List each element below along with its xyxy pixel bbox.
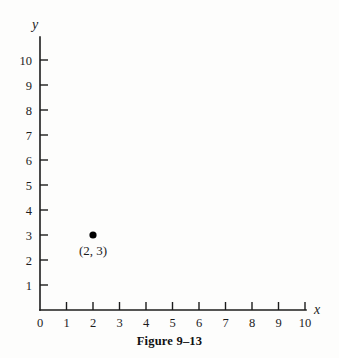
data-point-dot: [89, 231, 96, 238]
figure-caption: Figure 9–13: [0, 334, 339, 349]
x-tick-label: 3: [116, 316, 122, 330]
coordinate-plane-plot: 12345678910 012345678910 y x (2, 3): [0, 0, 339, 358]
x-tick-label: 4: [143, 316, 150, 330]
y-tick-label: 9: [26, 79, 32, 93]
figure-container: 12345678910 012345678910 y x (2, 3) Figu…: [0, 0, 339, 358]
x-tick-label: 10: [299, 316, 312, 330]
x-tick-label: 1: [63, 316, 69, 330]
y-tick-label: 4: [26, 204, 33, 218]
x-tick-label: 7: [222, 316, 228, 330]
y-tick-label: 8: [26, 104, 32, 118]
x-tick-label: 8: [249, 316, 255, 330]
x-axis-ticks-group: 012345678910: [37, 302, 311, 330]
y-tick-label: 3: [26, 229, 32, 243]
y-tick-label: 1: [26, 279, 32, 293]
x-tick-label: 9: [275, 316, 281, 330]
x-tick-label: 5: [169, 316, 175, 330]
data-point-label: (2, 3): [79, 243, 107, 258]
x-tick-label: 6: [196, 316, 202, 330]
data-points-group: (2, 3): [79, 231, 107, 258]
y-axis-label: y: [30, 17, 39, 32]
axes-group: [40, 37, 306, 310]
y-tick-label: 10: [20, 54, 33, 68]
x-tick-label: 0: [37, 316, 43, 330]
y-tick-label: 6: [26, 154, 32, 168]
y-tick-label: 2: [26, 254, 32, 268]
x-axis-label: x: [313, 302, 321, 317]
y-tick-label: 7: [26, 129, 32, 143]
x-tick-label: 2: [90, 316, 96, 330]
y-axis-ticks-group: 12345678910: [20, 54, 49, 293]
y-tick-label: 5: [26, 179, 32, 193]
